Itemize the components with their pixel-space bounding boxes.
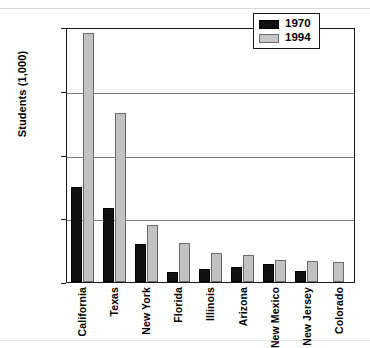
- legend-item-1994: 1994: [259, 31, 311, 45]
- x-label-slot: Florida: [162, 285, 194, 345]
- x-axis-label-illinois: Illinois: [204, 287, 216, 321]
- x-axis-label-texas: Texas: [108, 287, 120, 317]
- bar-1970-new-mexico: [263, 264, 274, 282]
- bar-1994-california: [83, 33, 94, 282]
- bar-group: [195, 29, 227, 282]
- bar-1994-illinois: [211, 253, 222, 282]
- bar-1994-new-york: [147, 225, 158, 282]
- bar-1970-arizona: [231, 267, 242, 282]
- x-label-slot: New Mexico: [259, 285, 291, 345]
- y-tick-mark-1500: [61, 92, 66, 93]
- bars-layer: [67, 29, 354, 282]
- legend-label-1994: 1994: [285, 32, 311, 44]
- x-axis-label-new-mexico: New Mexico: [269, 287, 281, 348]
- bar-1994-texas: [115, 113, 126, 282]
- bar-1970-new-york: [135, 244, 146, 282]
- bar-group: [258, 29, 290, 282]
- x-axis-label-colorado: Colorado: [333, 287, 345, 334]
- bar-group: [290, 29, 322, 282]
- x-label-slot: Arizona: [227, 285, 259, 345]
- y-tick-mark-500: [61, 219, 66, 220]
- x-label-slot: Texas: [98, 285, 130, 345]
- legend-item-1970: 1970: [259, 17, 311, 31]
- bar-1970-illinois: [199, 269, 210, 282]
- x-axis-label-florida: Florida: [172, 287, 184, 323]
- x-label-slot: California: [66, 285, 98, 345]
- bar-group: [163, 29, 195, 282]
- bar-group: [67, 29, 99, 282]
- legend-swatch-1970: [259, 20, 279, 29]
- bar-1994-new-mexico: [275, 260, 286, 282]
- y-axis-title: Students (1,000): [16, 24, 28, 164]
- y-tick-mark-2000: [61, 28, 66, 29]
- x-label-slot: New York: [130, 285, 162, 345]
- x-label-slot: Colorado: [323, 285, 355, 345]
- chart-legend: 1970 1994: [253, 13, 320, 49]
- bar-1994-florida: [179, 243, 190, 282]
- x-axis-label-new-jersey: New Jersey: [301, 287, 313, 346]
- legend-swatch-1994: [259, 34, 279, 43]
- legend-label-1970: 1970: [285, 18, 311, 30]
- bar-1994-colorado: [333, 262, 344, 282]
- bar-group: [226, 29, 258, 282]
- bar-1994-arizona: [243, 255, 254, 282]
- x-label-slot: Illinois: [194, 285, 226, 345]
- x-axis-label-california: California: [76, 287, 88, 336]
- bar-1994-new-jersey: [307, 261, 318, 282]
- bar-1970-california: [71, 187, 82, 282]
- x-axis-labels: CaliforniaTexasNew YorkFloridaIllinoisAr…: [66, 285, 355, 345]
- bar-1970-texas: [103, 208, 114, 282]
- bar-group: [322, 29, 354, 282]
- x-axis-label-arizona: Arizona: [237, 287, 249, 326]
- bar-group: [131, 29, 163, 282]
- y-tick-mark-0: [61, 283, 66, 284]
- y-tick-mark-1000: [61, 156, 66, 157]
- bar-1970-new-jersey: [295, 271, 306, 282]
- x-axis-label-new-york: New York: [140, 287, 152, 335]
- bar-1970-florida: [167, 272, 178, 282]
- top-divider-rule: [0, 8, 370, 9]
- bar-group: [99, 29, 131, 282]
- x-label-slot: New Jersey: [291, 285, 323, 345]
- plot-area: [66, 28, 355, 283]
